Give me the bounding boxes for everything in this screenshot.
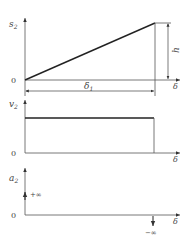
s2-label: s2 <box>9 19 18 30</box>
origin-label: 0 <box>11 149 16 158</box>
delta-axis-label: δ <box>173 82 178 91</box>
origin-label: 0 <box>11 211 16 220</box>
motion-diagram: s2 0 δ h δ1 v2 0 δ a2 0 δ +∞ <box>0 0 193 251</box>
v2-label: v2 <box>9 99 18 110</box>
displacement-panel: s2 0 δ h δ1 <box>9 18 181 96</box>
negative-infinity-label: −∞ <box>145 229 157 237</box>
delta-axis-label: δ <box>173 217 178 226</box>
h-label: h <box>171 47 181 53</box>
origin-label: 0 <box>11 76 16 85</box>
acceleration-panel: a2 0 δ +∞ −∞ <box>9 168 180 237</box>
a2-label: a2 <box>9 173 18 184</box>
delta-axis-label: δ <box>173 155 178 164</box>
positive-infinity-label: +∞ <box>30 191 42 199</box>
velocity-panel: v2 0 δ <box>9 99 180 164</box>
displacement-curve <box>25 23 155 80</box>
delta1-label: δ1 <box>84 81 93 92</box>
